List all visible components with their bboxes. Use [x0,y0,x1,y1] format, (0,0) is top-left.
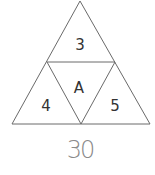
cell-center-label: A [74,79,85,97]
cell-top-label: 3 [75,36,85,54]
handwritten-answer: 30 [67,136,94,164]
cell-left-label: 4 [41,97,51,115]
triangle-puzzle-diagram: 3 4 A 5 30 [0,0,155,175]
cell-right-label: 5 [110,97,120,115]
